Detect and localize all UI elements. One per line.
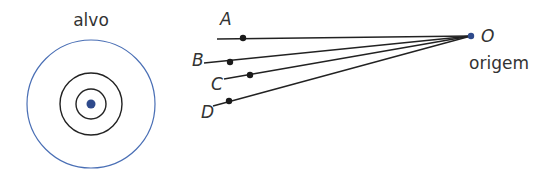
target-label: alvo [73,10,109,30]
origin-label: O [481,26,494,46]
trajectory-label: A [219,9,232,29]
trajectory-line [217,36,471,39]
trajectory-a: A [217,9,471,41]
origin-point [468,33,474,39]
bullseye-dot [87,100,96,109]
trajectory-point [247,72,253,78]
trajectory-line [213,36,471,106]
trajectory-lines: ABCD [192,9,471,122]
target [27,40,155,168]
trajectory-d: D [201,36,471,122]
trajectory-label: C [211,74,223,94]
trajectory-diagram: ABCD alvo O origem [0,0,554,180]
trajectory-c: C [211,36,471,94]
trajectory-point [240,35,246,41]
origin [468,33,474,39]
origin-caption: origem [469,53,529,73]
trajectory-label: B [192,50,204,70]
trajectory-point [227,59,233,65]
trajectory-point [226,98,232,104]
trajectory-b: B [192,36,471,70]
trajectory-label: D [201,102,214,122]
